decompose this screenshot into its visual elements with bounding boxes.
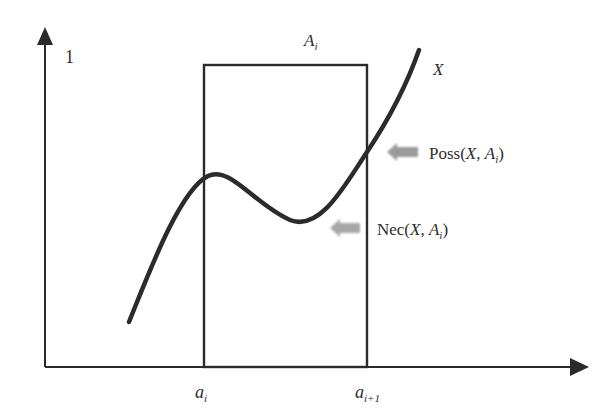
x-tick-left-base: a — [195, 382, 204, 402]
x-tick-left-label: ai — [195, 383, 207, 401]
nec-arrow-icon — [330, 219, 360, 237]
nec-suffix: ) — [442, 220, 448, 239]
nec-prefix: Nec( — [377, 220, 410, 239]
poss-prefix: Poss( — [429, 144, 466, 163]
poss-a: A — [485, 144, 495, 163]
nec-a: A — [429, 220, 439, 239]
possibility-necessity-diagram — [0, 0, 612, 417]
box-label: Ai — [304, 32, 317, 49]
curve-label: X — [433, 61, 443, 78]
nec-sep: , — [420, 220, 429, 239]
y-axis-max-label: 1 — [65, 48, 74, 66]
x-tick-right-sub: i+1 — [364, 392, 380, 404]
nec-sub: i — [439, 229, 442, 241]
x-axis-arrow-icon — [570, 358, 589, 376]
x-tick-right-base: a — [355, 382, 364, 402]
box-label-base: A — [304, 31, 314, 50]
nec-label: Nec(X, Ai) — [377, 221, 448, 238]
box-label-sub: i — [314, 40, 317, 52]
poss-sep: , — [476, 144, 485, 163]
poss-suffix: ) — [498, 144, 504, 163]
poss-label: Poss(X, Ai) — [429, 145, 504, 162]
y-axis-arrow-icon — [37, 27, 53, 45]
poss-sub: i — [495, 153, 498, 165]
poss-x: X — [466, 144, 476, 163]
nec-x: X — [410, 220, 420, 239]
membership-curve — [129, 50, 419, 322]
x-tick-right-label: ai+1 — [355, 383, 380, 401]
poss-arrow-icon — [387, 143, 418, 161]
x-tick-left-sub: i — [204, 392, 207, 404]
